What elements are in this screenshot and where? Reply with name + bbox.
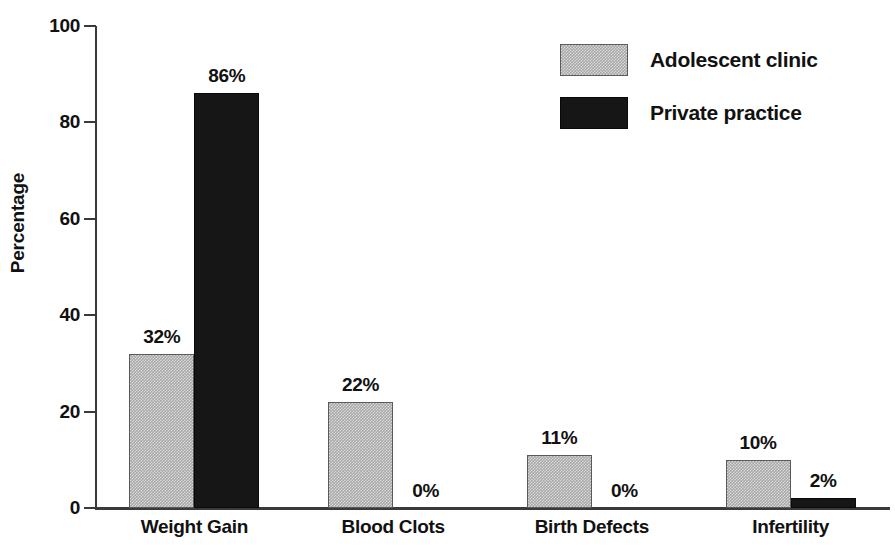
y-axis-tick-label: 0: [70, 497, 80, 519]
category-label: Infertility: [752, 516, 829, 538]
legend: Adolescent clinicPrivate practice: [560, 40, 818, 146]
legend-swatch-icon: [560, 97, 628, 129]
bar-value-label: 86%: [208, 65, 245, 87]
y-axis-tick-label: 100: [49, 15, 80, 37]
bar: [328, 402, 393, 508]
y-axis-tick-label: 80: [59, 111, 80, 133]
bar-value-label: 22%: [342, 374, 379, 396]
bar: [791, 498, 856, 508]
legend-label: Adolescent clinic: [650, 48, 818, 72]
bar-value-label: 11%: [541, 427, 577, 449]
bar: [726, 460, 791, 508]
y-axis-tick-label: 20: [59, 401, 80, 423]
category-label: Blood Clots: [341, 516, 444, 538]
legend-label: Private practice: [650, 101, 802, 125]
y-axis-tick-label: 60: [59, 208, 80, 230]
bar: [527, 455, 592, 508]
bar-chart: Percentage 020406080100 32%86%22%0%11%0%…: [0, 0, 895, 551]
bar-value-label: 2%: [810, 470, 837, 492]
bar: [129, 354, 194, 508]
y-axis-title: Percentage: [7, 143, 29, 303]
bar-value-label: 0%: [611, 480, 638, 502]
category-label: Birth Defects: [535, 516, 649, 538]
y-axis-tick-label: 40: [59, 304, 80, 326]
bar: [194, 93, 259, 508]
bar-value-label: 0%: [412, 480, 439, 502]
cropped-title-remnant: [0, 0, 895, 7]
legend-item: Private practice: [560, 93, 818, 132]
bar-value-label: 10%: [740, 432, 777, 454]
category-label: Weight Gain: [141, 516, 248, 538]
legend-swatch-icon: [560, 44, 628, 76]
bar-value-label: 32%: [143, 326, 180, 348]
legend-item: Adolescent clinic: [560, 40, 818, 79]
